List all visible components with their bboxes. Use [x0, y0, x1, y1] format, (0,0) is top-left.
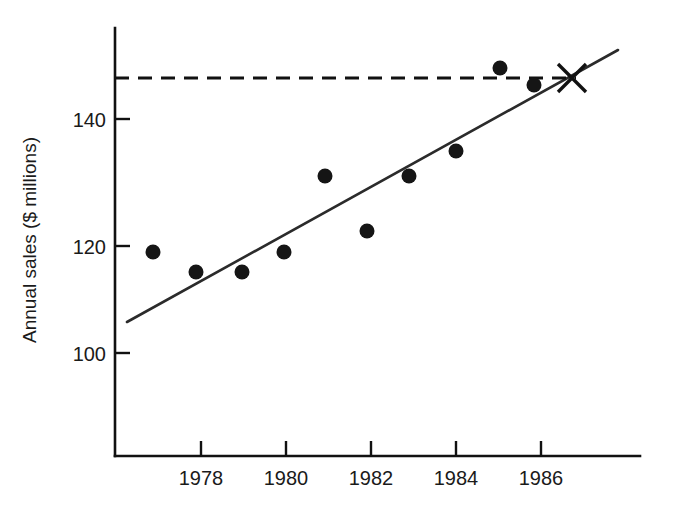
chart-canvas: 140 120 100 1978 1980 1982 1984 1986 Ann…: [0, 0, 680, 505]
y-tick-label-120: 120: [73, 236, 106, 258]
y-tick-label-100: 100: [73, 343, 106, 365]
data-point: [277, 245, 292, 260]
data-point: [235, 265, 250, 280]
data-point: [360, 224, 375, 239]
x-tick-label-1980: 1980: [264, 467, 309, 489]
y-tick-label-140: 140: [73, 109, 106, 131]
x-tick-label-1982: 1982: [349, 467, 394, 489]
data-point: [146, 245, 161, 260]
y-axis-title: Annual sales ($ millions): [19, 137, 40, 343]
x-tick-label-1986: 1986: [519, 467, 564, 489]
data-point: [402, 169, 417, 184]
x-tick-label-1984: 1984: [434, 467, 479, 489]
data-point: [493, 61, 508, 76]
sales-trend-chart: 140 120 100 1978 1980 1982 1984 1986 Ann…: [0, 0, 680, 505]
data-point: [527, 78, 542, 93]
data-point: [449, 144, 464, 159]
x-tick-label-1978: 1978: [179, 467, 224, 489]
data-point: [318, 169, 333, 184]
trend-line: [127, 50, 618, 322]
data-point: [189, 265, 204, 280]
